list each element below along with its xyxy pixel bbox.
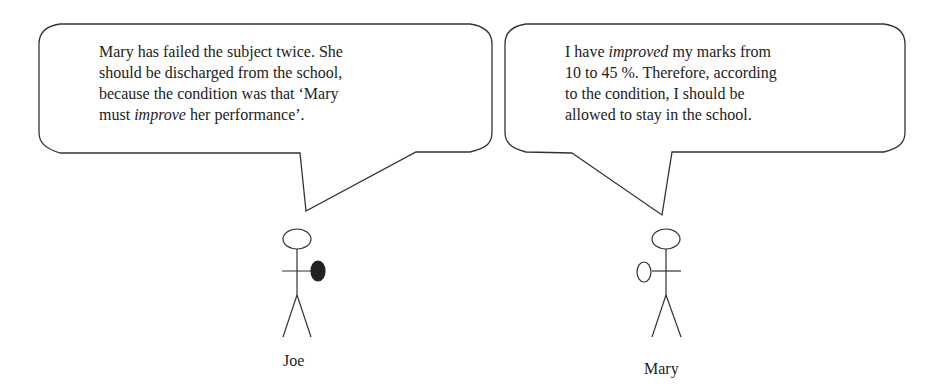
left-bubble-line-1: Mary has failed the subject twice. She (99, 41, 343, 62)
left-bubble-line-2: should be discharged from the school, (99, 62, 343, 83)
right-bubble-line-3: to the condition, I should be (565, 83, 777, 104)
left-line4-emphasis: improve (134, 106, 186, 123)
right-bubble-line-4: allowed to stay in the school. (565, 104, 777, 125)
left-bubble-text: Mary has failed the subject twice. She s… (99, 41, 343, 125)
right-line1-pre: I have (565, 43, 609, 60)
mary-figure (637, 229, 681, 337)
mary-open-hand-icon (637, 262, 651, 282)
mary-label: Mary (644, 360, 679, 378)
left-line4-post: her performance’. (186, 106, 305, 123)
left-line4-pre: must (99, 106, 134, 123)
joe-filled-hand-icon (311, 261, 325, 281)
joe-figure (282, 229, 325, 337)
right-bubble-text: I have improved my marks from 10 to 45 %… (565, 41, 777, 125)
joe-head (283, 229, 311, 249)
right-bubble-line-1: I have improved my marks from (565, 41, 777, 62)
right-line1-post: my marks from (668, 43, 771, 60)
left-bubble-line-4: must improve her performance’. (99, 104, 343, 125)
joe-label: Joe (283, 352, 304, 370)
mary-head (652, 229, 680, 249)
right-bubble-line-2: 10 to 45 %. Therefore, according (565, 62, 777, 83)
left-bubble-line-3: because the condition was that ‘Mary (99, 83, 343, 104)
right-line1-emphasis: improved (609, 43, 669, 60)
